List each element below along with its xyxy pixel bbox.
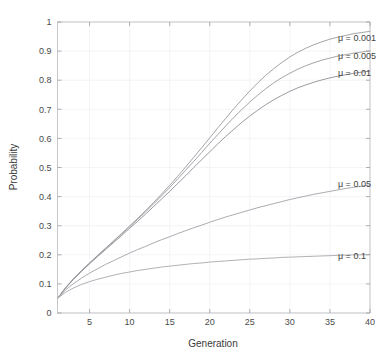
x-tick-label: 10	[125, 317, 135, 327]
x-tick-label: 30	[285, 317, 295, 327]
x-tick-label: 20	[205, 317, 215, 327]
x-axis-title: Generation	[188, 338, 237, 349]
series-label-mu-0-005: μ = 0.005	[338, 51, 376, 61]
y-tick-label: 0.8	[39, 75, 52, 85]
series-label-mu-0-001: μ = 0.001	[338, 33, 376, 43]
y-tick-label: 0.5	[39, 163, 52, 173]
x-tick-label: 15	[165, 317, 175, 327]
svg-text:Generation: Generation	[188, 338, 237, 349]
svg-text:Probability: Probability	[8, 144, 19, 191]
y-tick-label: 1	[46, 17, 51, 27]
series-label-mu-0-05: μ = 0.05	[338, 179, 371, 189]
series-label-mu-0-01: μ = 0.01	[338, 68, 371, 78]
probability-vs-generation-chart: 510152025303540 00.10.20.30.40.50.60.70.…	[0, 0, 383, 358]
y-tick-label: 0	[46, 308, 51, 318]
series-label-mu-0-1: μ = 0.1	[338, 251, 366, 261]
y-tick-label: 0.2	[39, 250, 52, 260]
x-tick-label: 35	[325, 317, 335, 327]
y-tick-label: 0.3	[39, 221, 52, 231]
x-tick-label: 5	[87, 317, 92, 327]
chart-figure: 510152025303540 00.10.20.30.40.50.60.70.…	[0, 0, 383, 358]
x-tick-label: 25	[245, 317, 255, 327]
x-tick-label: 40	[365, 317, 375, 327]
y-tick-label: 0.9	[39, 46, 52, 56]
y-tick-label: 0.1	[39, 279, 52, 289]
y-axis-title: Probability	[8, 144, 19, 191]
y-tick-label: 0.4	[39, 192, 52, 202]
y-tick-label: 0.7	[39, 105, 52, 115]
y-tick-label: 0.6	[39, 134, 52, 144]
